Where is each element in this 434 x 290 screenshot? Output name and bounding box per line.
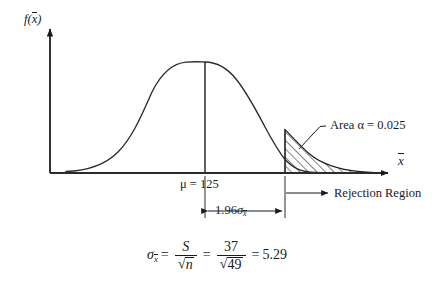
x-axis-label-xbar: x [398,153,404,167]
critical-distance-label: 1.96σx [215,204,247,218]
formula-fraction-1: Sn [175,240,197,272]
formula-denominator-sqrt-49: 49 [217,256,246,272]
formula-49: 49 [227,257,243,272]
formula-fraction-2: 3749 [217,240,246,272]
formula-numerator-37: 37 [217,240,246,256]
rejection-region-label: Rejection Region [334,187,421,200]
formula-sigma: σ [147,247,154,262]
alpha-symbol: α [357,118,364,132]
x-axis-label: x [398,153,404,167]
y-axis-label-xbar: x [32,12,38,26]
formula-equals-1: = [161,247,169,262]
area-label-leader-line [299,126,326,149]
y-axis-label-paren-close: ) [37,12,41,26]
y-axis-label: f(x) [24,12,41,26]
area-equals: = [367,118,374,132]
mu-value: 125 [200,177,219,191]
formula-sigma-subscript: x [154,254,158,264]
mu-equals: = [190,177,197,191]
formula-n: n [185,257,194,272]
mu-symbol: μ [180,177,187,191]
formula-result: 5.29 [262,247,287,262]
mean-label: μ = 125 [180,178,219,191]
normal-distribution-figure: f(x) x Area α = 0.025 μ = 125 Rejection … [0,0,434,290]
standard-error-formula: σx=Sn=3749=5.29 [0,240,434,272]
dim-sigma-subscript: x [243,209,246,218]
alpha-value: 0.025 [377,118,405,132]
area-word: Area [330,118,354,132]
rejection-region-shading [285,130,381,173]
formula-numerator-S: S [175,240,197,256]
formula-equals-3: = [252,247,260,262]
formula-equals-2: = [203,247,211,262]
formula-denominator-sqrt-n: n [175,256,197,272]
area-alpha-label: Area α = 0.025 [330,119,405,132]
dim-numeric-value: 1.96 [215,203,237,217]
